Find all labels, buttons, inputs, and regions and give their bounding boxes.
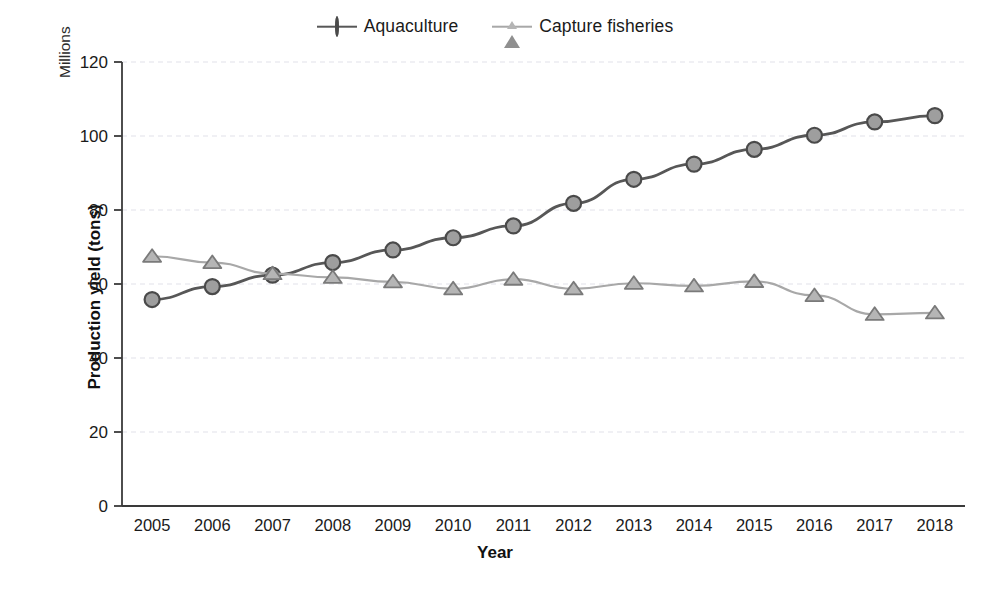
x-tick-label: 2013 [615, 516, 652, 534]
x-tick-label: 2018 [917, 516, 954, 534]
data-point-marker[interactable] [566, 196, 581, 211]
x-axis-ticks: 2005200620072008200920102011201220132014… [134, 516, 954, 534]
y-axis-ticks: 020406080100120 [80, 53, 122, 516]
x-tick-label: 2012 [555, 516, 592, 534]
data-point-marker[interactable] [145, 292, 160, 307]
data-point-marker[interactable] [506, 218, 521, 233]
y-tick-label: 60 [89, 275, 108, 294]
series-capture-fisheries [143, 249, 944, 320]
line-chart: Aquaculture Capture fisheries Production… [0, 0, 990, 593]
x-tick-label: 2010 [435, 516, 472, 534]
x-tick-label: 2015 [736, 516, 773, 534]
x-tick-label: 2014 [676, 516, 713, 534]
y-tick-label: 100 [80, 127, 108, 146]
data-point-marker[interactable] [747, 142, 762, 157]
data-point-marker[interactable] [446, 230, 461, 245]
x-tick-label: 2009 [375, 516, 412, 534]
plot-area: 020406080100120 200520062007200820092010… [0, 0, 990, 593]
data-point-marker[interactable] [626, 172, 641, 187]
x-tick-label: 2017 [856, 516, 893, 534]
y-tick-label: 20 [89, 423, 108, 442]
data-point-marker[interactable] [205, 279, 220, 294]
x-tick-label: 2011 [496, 516, 531, 534]
data-point-marker[interactable] [687, 157, 702, 172]
data-series-layer [143, 108, 944, 320]
data-point-marker[interactable] [385, 242, 400, 257]
x-tick-label: 2005 [134, 516, 171, 534]
y-tick-label: 120 [80, 53, 108, 72]
y-tick-label: 0 [99, 497, 108, 516]
y-tick-label: 80 [89, 201, 108, 220]
data-point-marker[interactable] [325, 255, 340, 270]
x-tick-label: 2008 [314, 516, 351, 534]
gridlines [122, 62, 965, 432]
x-tick-label: 2006 [194, 516, 231, 534]
y-tick-label: 40 [89, 349, 108, 368]
data-point-marker[interactable] [927, 108, 942, 123]
x-tick-label: 2007 [254, 516, 291, 534]
x-tick-label: 2016 [796, 516, 833, 534]
data-point-marker[interactable] [867, 114, 882, 129]
data-point-marker[interactable] [807, 128, 822, 143]
